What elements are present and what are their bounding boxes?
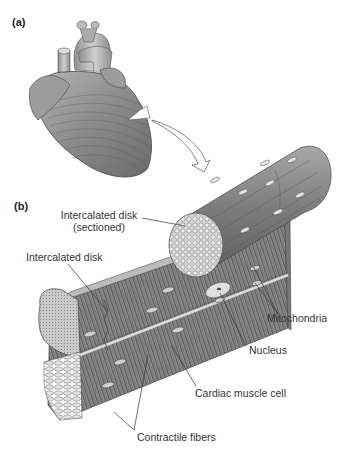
panel-label-a: (a) bbox=[12, 16, 25, 28]
label-mitochondria: Mitochondria bbox=[267, 312, 327, 324]
label-line: (sectioned) bbox=[58, 221, 140, 233]
diagram-canvas bbox=[0, 0, 344, 450]
label-nucleus: Nucleus bbox=[249, 344, 287, 356]
label-line: Intercalated disk bbox=[58, 209, 140, 221]
label-intercalated-disk: Intercalated disk bbox=[26, 251, 102, 263]
label-intercalated-disk-sectioned: Intercalated disk (sectioned) bbox=[58, 209, 140, 233]
zoom-arrow-icon bbox=[152, 120, 210, 172]
label-contractile-fibers: Contractile fibers bbox=[137, 431, 216, 443]
heart-illustration bbox=[29, 21, 153, 177]
cardiac-muscle-illustration bbox=[39, 146, 331, 420]
label-cardiac-muscle-cell: Cardiac muscle cell bbox=[195, 387, 286, 399]
panel-label-b: (b) bbox=[14, 200, 28, 212]
